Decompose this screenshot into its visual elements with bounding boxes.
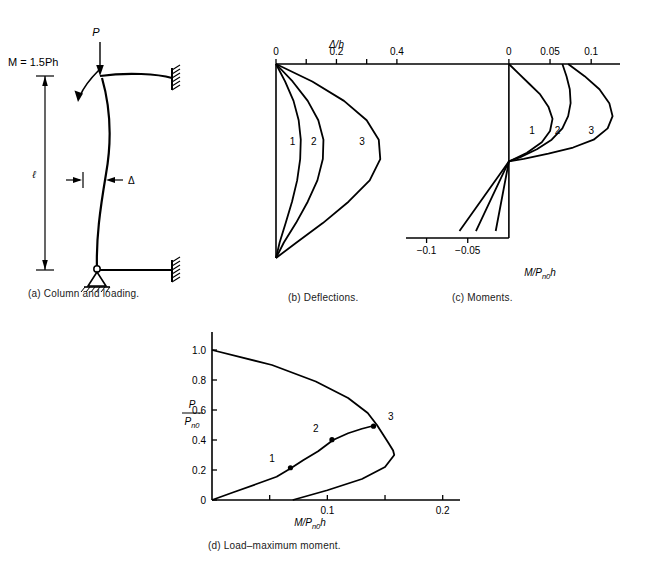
panel-a-column-and-loading: P M = 1.5Ph — [0, 20, 230, 290]
column-deflected-shape — [97, 78, 110, 270]
chart-b-tick-label: 0 — [273, 46, 279, 57]
chart-d-marker-label-3: 3 — [388, 411, 394, 422]
chart-b-curve-label-1: 1 — [290, 136, 296, 147]
chart-c-tick-label: −0.1 — [417, 245, 437, 256]
caption-panel-a: (a) Column and loading. — [28, 288, 139, 299]
chart-b-curve-label-3: 3 — [359, 136, 365, 147]
chart-c-curve-label-3: 3 — [588, 125, 594, 136]
chart-d-marker-1 — [288, 465, 293, 470]
load-label-P: P — [92, 26, 100, 38]
chart-c-tick-label: 0.05 — [540, 46, 560, 57]
figure-root: P M = 1.5Ph — [0, 0, 645, 570]
panel-c-chart: −0.1−0.0500.050.1 123 M/Pn0h — [398, 36, 628, 286]
chart-d-marker-label-1: 1 — [269, 453, 275, 464]
chart-c-tick-label: −0.05 — [455, 245, 481, 256]
chart-d-marker-label-2: 2 — [313, 423, 319, 434]
moment-label: M = 1.5Ph — [8, 56, 58, 68]
panel-c-moments: −0.1−0.0500.050.1 123 M/Pn0h — [398, 36, 628, 286]
chart-d-marker-3 — [371, 424, 376, 429]
chart-d-curve-load-path — [212, 426, 373, 500]
svg-text:P: P — [189, 399, 196, 410]
chart-d-xaxis-title: M/Pn0h — [294, 517, 326, 531]
chart-d-markers: 123 — [269, 411, 394, 471]
fixed-support-top-right — [172, 65, 180, 90]
chart-d-xtick-label: 0.1 — [320, 505, 334, 516]
length-label: ℓ — [31, 169, 36, 180]
chart-d-xtick-label: 0.2 — [436, 505, 450, 516]
chart-d-curve-interaction-envelope — [212, 350, 394, 500]
deflection-dimension — [66, 172, 123, 188]
chart-d-ytick-label: 1.0 — [192, 345, 206, 356]
panel-d-chart: 00.20.40.60.81.00.10.2 123 P Pn0 M/Pn0h — [160, 330, 480, 540]
chart-b-curves — [276, 64, 380, 258]
chart-d-axes: 00.20.40.60.81.00.10.2 — [192, 332, 460, 516]
chart-b-curve-1 — [276, 64, 301, 258]
chart-d-curves — [212, 350, 394, 500]
panel-a-diagram: P M = 1.5Ph — [0, 20, 230, 290]
chart-d-ytick-label: 0.8 — [192, 375, 206, 386]
caption-panel-c: (c) Moments. — [452, 292, 513, 303]
chart-d-marker-2 — [329, 437, 334, 442]
chart-d-ytick-label: 0 — [200, 495, 206, 506]
chart-b-xaxis-title: Δ/h — [328, 39, 344, 50]
chart-c-curve-2 — [476, 64, 571, 231]
svg-text:Pn0: Pn0 — [184, 416, 200, 430]
chart-c-xaxis-title: M/Pn0h — [524, 267, 556, 281]
top-beam — [100, 74, 172, 78]
moment-arrow — [75, 70, 100, 102]
chart-c-curves — [460, 64, 613, 231]
chart-d-ytick-label: 0.4 — [192, 435, 206, 446]
fixed-support-bottom-right — [172, 257, 180, 282]
chart-c-tick-label: 0 — [506, 46, 512, 57]
caption-panel-b: (b) Deflections. — [288, 292, 358, 303]
chart-c-curve-3 — [496, 64, 613, 231]
panel-d-load-maximum-moment: 00.20.40.60.81.00.10.2 123 P Pn0 M/Pn0h — [160, 330, 480, 540]
chart-c-curve-label-1: 1 — [529, 125, 535, 136]
chart-b-curve-label-2: 2 — [311, 136, 317, 147]
chart-c-axes: −0.1−0.0500.050.1 — [406, 46, 620, 256]
chart-d-ytick-label: 0.2 — [192, 465, 206, 476]
chart-c-tick-label: 0.1 — [584, 46, 598, 57]
caption-panel-d: (d) Load–maximum moment. — [208, 540, 341, 551]
chart-c-curve-label-2: 2 — [555, 125, 561, 136]
length-dimension — [36, 76, 54, 270]
deflection-label: Δ — [128, 175, 135, 186]
